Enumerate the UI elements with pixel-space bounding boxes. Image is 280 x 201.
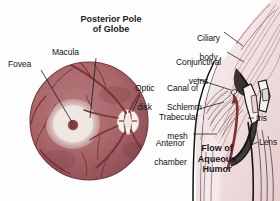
callout-line-1: Flow of — [201, 143, 233, 153]
label-anterior-chamber-line-1: Anterior — [156, 138, 185, 148]
eye-anatomy-figure: Posterior Pole of Globe Macula Fovea Opt… — [0, 0, 280, 201]
label-fovea: Fovea — [8, 60, 31, 70]
label-lens: Lens — [259, 138, 277, 148]
title-line-2: of Globe — [93, 24, 130, 34]
label-anterior-chamber: Anterior chamber — [144, 129, 188, 177]
label-anterior-chamber-line-2: chamber — [154, 157, 186, 167]
label-iris: Iris — [256, 114, 267, 124]
label-ciliary-body-line-1: Ciliary — [197, 33, 220, 43]
label-trabecular-mesh-line-1: Trabecular — [159, 112, 198, 122]
callout-line-2: Aqueous — [198, 154, 237, 164]
label-optic-disk-line-1: Optic — [135, 83, 154, 93]
title-line-1: Posterior Pole — [80, 14, 141, 24]
callout-line-3: Humor — [203, 164, 232, 174]
figure-title: Posterior Pole of Globe — [58, 14, 164, 34]
callout-flow-of-aqueous-humor: Flow of Aqueous Humor — [190, 143, 244, 175]
label-macula: Macula — [52, 48, 79, 58]
label-conjunctival-veins-line-1: Conjunctival — [176, 57, 221, 67]
label-canal-of-schlemm-line-1: Canal of — [167, 83, 198, 93]
